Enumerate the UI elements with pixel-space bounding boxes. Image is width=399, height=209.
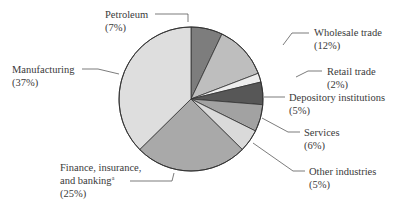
pct-other-industries: (5%) [309,179,330,191]
pct-finance: (25%) [60,188,87,200]
leader-petroleum [155,14,188,22]
pct-manufacturing: (37%) [12,77,39,89]
pct-wholesale-trade: (12%) [314,40,341,52]
pct-petroleum: (7%) [105,22,126,34]
label-petroleum: Petroleum [105,9,148,20]
pct-retail-trade: (2%) [327,79,348,91]
leader-wholesale-trade [283,33,309,45]
pie-slices [119,27,263,171]
leader-finance-insurance [130,173,174,181]
label-retail-trade: Retail trade [327,66,376,77]
label-services: Services [304,127,340,138]
label-manufacturing: Manufacturing [12,64,75,75]
leader-retail-trade [296,71,322,77]
label-finance-line2: and bankinga [60,175,115,186]
label-finance-line1: Finance, insurance, [60,162,141,173]
pct-depository-institutions: (5%) [289,105,310,117]
label-depository-institutions: Depository institutions [289,92,385,103]
leader-services [262,118,300,132]
footnote-marker: a [112,175,115,181]
label-other-industries: Other industries [309,166,376,177]
pct-services: (6%) [304,140,325,152]
leader-manufacturing [82,69,119,74]
leader-other-industries [253,143,305,171]
label-wholesale-trade: Wholesale trade [314,27,382,38]
pie-chart: Petroleum (7%) Wholesale trade (12%) Ret… [0,0,399,209]
